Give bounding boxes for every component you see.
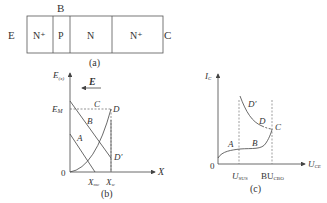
diagram-canvas: E C B N⁺ P N N⁺ (a) E(x) X 0 E EM A B C …	[0, 0, 327, 203]
collector-terminal-label: C	[164, 29, 171, 41]
panel-a-structure: E C B N⁺ P N N⁺ (a)	[8, 2, 171, 69]
usus-label: USUS	[232, 171, 248, 181]
point-d-label: D	[258, 116, 266, 126]
caption-b: (b)	[101, 188, 113, 200]
point-a-label: A	[76, 133, 83, 143]
xw-label: Xw	[105, 177, 116, 187]
point-b-label: B	[252, 138, 258, 148]
base-terminal-label: B	[57, 2, 64, 14]
emitter-terminal-label: E	[8, 29, 15, 41]
region-base-p: P	[58, 30, 64, 41]
x-axis-label: UCE	[308, 159, 321, 169]
caption-c: (c)	[250, 183, 261, 195]
point-c-label: C	[94, 99, 101, 109]
panel-c-iv-plot: IC UCE 0 A B C D D′ USUS BUCBO (c)	[204, 71, 321, 195]
point-c-label: C	[275, 122, 282, 132]
curve-d-dashed	[262, 126, 272, 129]
point-b-label: B	[87, 116, 93, 126]
curve-abc	[218, 129, 272, 158]
origin-label: 0	[210, 161, 215, 171]
field-label: E	[88, 76, 96, 87]
panel-b-field-plot: E(x) X 0 E EM A B C D D′ Xmc Xw (b)	[51, 70, 165, 200]
x-axis-label: X	[157, 166, 165, 177]
region-collector-n: N	[87, 30, 94, 41]
y-axis-label: E(x)	[52, 70, 64, 81]
bu-label: BUCBO	[261, 171, 284, 181]
region-collector-n-plus: N⁺	[130, 30, 143, 41]
device-outline	[27, 16, 163, 53]
point-d-prime-label: D′	[113, 152, 123, 162]
point-d-label: D	[112, 104, 120, 114]
xmc-label: Xmc	[87, 177, 100, 187]
caption-a: (a)	[89, 57, 100, 69]
point-d-prime-label: D′	[247, 99, 257, 109]
y-axis-label: IC	[204, 71, 212, 81]
origin-label: 0	[61, 168, 66, 178]
region-emitter-n-plus: N⁺	[33, 30, 46, 41]
em-label: EM	[51, 104, 64, 114]
point-a-label: A	[227, 139, 234, 149]
